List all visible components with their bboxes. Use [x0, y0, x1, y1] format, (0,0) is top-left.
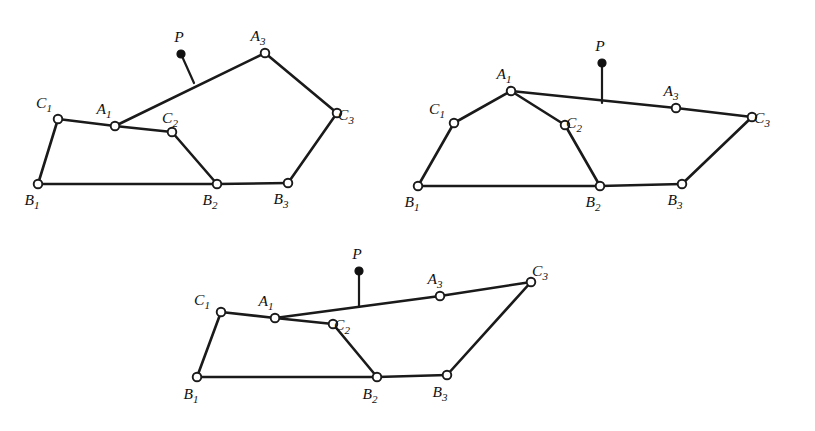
- linkage-figure: B1C1A1C2B2B3C3A3PB1C1A1C2B2B3C3A3PB1C1A1…: [0, 0, 815, 431]
- joint-node-B3: [678, 180, 687, 189]
- joint-node-A1: [507, 87, 516, 96]
- joint-node-A3: [261, 49, 270, 58]
- figure-root: B1C1A1C2B2B3C3A3PB1C1A1C2B2B3C3A3PB1C1A1…: [0, 0, 815, 431]
- joint-node-B2: [213, 180, 222, 189]
- vertex-label-P: P: [594, 37, 605, 54]
- figure-background: [0, 0, 815, 431]
- joint-node-B3: [443, 371, 452, 380]
- driver-node-P: [177, 50, 185, 58]
- joint-node-B2: [596, 182, 605, 191]
- joint-node-B3: [284, 179, 293, 188]
- joint-node-C1: [217, 308, 226, 317]
- joint-node-B1: [193, 373, 202, 382]
- linkage-bar-B2-B3: [217, 183, 288, 184]
- joint-node-A1: [271, 314, 280, 323]
- joint-node-C1: [450, 119, 459, 128]
- joint-node-C1: [54, 115, 63, 124]
- joint-node-B2: [373, 373, 382, 382]
- joint-node-A3: [672, 104, 681, 113]
- driver-node-P: [355, 267, 363, 275]
- joint-node-A3: [436, 292, 445, 301]
- vertex-label-P: P: [173, 28, 184, 45]
- joint-node-B1: [34, 180, 43, 189]
- joint-node-A1: [111, 122, 120, 131]
- driver-node-P: [598, 59, 606, 67]
- joint-node-B1: [414, 182, 423, 191]
- vertex-label-P: P: [351, 245, 362, 262]
